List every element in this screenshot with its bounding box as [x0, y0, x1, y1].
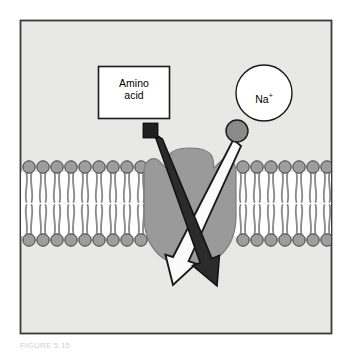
lipid-head — [237, 161, 249, 173]
lipid-head — [307, 234, 319, 246]
lipid-head — [279, 161, 291, 173]
lipid-head — [307, 161, 319, 173]
lipid-head — [265, 234, 277, 246]
lipid-head — [293, 234, 305, 246]
lipid-head — [23, 234, 35, 246]
lipid-head — [79, 234, 91, 246]
lipid-head — [251, 161, 263, 173]
lipid-head — [79, 161, 91, 173]
lipid-head — [135, 234, 147, 246]
lipid-head — [121, 161, 133, 173]
lipid-head — [107, 161, 119, 173]
lipid-head — [121, 234, 133, 246]
lipid-head — [265, 161, 277, 173]
lipid-head — [93, 234, 105, 246]
sodium-legend-circle — [236, 65, 292, 121]
lipid-head — [37, 234, 49, 246]
lipid-head — [293, 161, 305, 173]
lipid-head — [107, 234, 119, 246]
lipid-head — [51, 234, 63, 246]
membrane-transport-figure: Amino acid Na+ FIGURE 5.15 — [0, 0, 350, 355]
lipid-head — [65, 234, 77, 246]
lipid-head — [237, 234, 249, 246]
lipid-head — [23, 161, 35, 173]
lipid-head — [37, 161, 49, 173]
amino-acid-particle — [143, 123, 158, 138]
sodium-particle — [226, 120, 248, 142]
lipid-head — [93, 161, 105, 173]
diagram-canvas — [0, 0, 350, 355]
figure-caption: FIGURE 5.15 — [20, 341, 332, 353]
lipid-head — [51, 161, 63, 173]
amino-acid-legend-box — [99, 67, 170, 119]
lipid-head — [251, 234, 263, 246]
lipid-head — [65, 161, 77, 173]
lipid-head — [279, 234, 291, 246]
